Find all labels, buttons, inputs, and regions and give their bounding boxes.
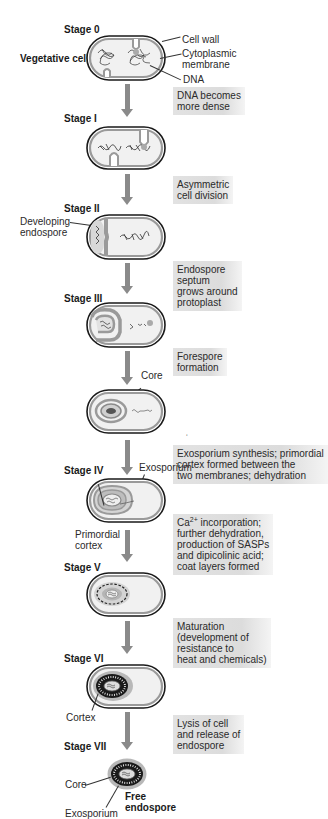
process-step-5-line3: two membranes; dehydration [177, 470, 324, 481]
arrow-down-icon [125, 84, 130, 110]
process-step-8-line1: Lysis of cell [177, 718, 240, 729]
stage-2-label: Stage II [64, 203, 100, 214]
process-step-6-line3: production of SASPs [177, 539, 269, 550]
process-step-2-line1: Asymmetric [177, 179, 229, 190]
process-step-8: Lysis of cell and release of endospore [173, 715, 244, 754]
stage-0-label: Stage 0 [64, 24, 100, 35]
stage-4-label: Stage IV [64, 465, 103, 476]
stage-6-label: Stage VI [64, 653, 103, 664]
process-step-7-line1: Maturation [177, 621, 267, 632]
calcium-charge: 2+ [190, 516, 198, 523]
core-label: Core [141, 370, 163, 381]
process-step-6-line1: Ca2+ incorporation; [177, 517, 269, 528]
arrow-down-icon [125, 263, 130, 287]
stage-3-cell-diagram [86, 302, 166, 348]
process-step-3-line4: protoplast [177, 297, 238, 308]
arrow-down-icon [125, 621, 130, 647]
forespore-cell-diagram [86, 389, 166, 434]
exosporium-free-label: Exosporium [65, 808, 118, 819]
vegetative-cell-label: Vegetative cell [20, 53, 89, 64]
process-step-5-line2: cortex formed between the [177, 459, 324, 470]
primordial-cortex-label-line1: Primordial [75, 529, 120, 540]
developing-endospore-label-line2: endospore [20, 227, 67, 238]
stage-2-cell-diagram [86, 214, 166, 260]
core-free-label: Core [65, 779, 87, 790]
process-step-6-line5: coat layers formed [177, 561, 269, 572]
process-step-5-line1: Exosporium synthesis; primordial [177, 448, 324, 459]
free-endospore-label-line2: endospore [125, 802, 176, 813]
arrow-down-icon [125, 351, 130, 378]
process-step-4-line1: Forespore [177, 351, 223, 362]
exosporium-label: Exosporium [139, 462, 192, 473]
stage-7-label: Stage VII [64, 741, 106, 752]
process-step-2-line2: cell division [177, 190, 229, 201]
dna-label: DNA [183, 74, 204, 85]
calcium-symbol: Ca [177, 517, 190, 528]
process-step-7-line3: resistance to [177, 643, 267, 654]
process-step-7: Maturation (development of resistance to… [173, 618, 271, 668]
primordial-cortex-label-line2: cortex [75, 540, 102, 551]
process-step-8-line3: endospore [177, 740, 240, 751]
cytoplasmic-membrane-label-line2: membrane [182, 59, 230, 70]
process-step-4-line2: formation [177, 362, 223, 373]
cortex-label: Cortex [66, 712, 95, 723]
cytoplasmic-membrane-label-line1: Cytoplasmic [182, 48, 236, 59]
stray-mark: ʻ [186, 433, 188, 442]
calcium-text: incorporation; [198, 517, 261, 528]
process-step-1-line2: more dense [177, 101, 241, 112]
process-step-3: Endospore septum grows around protoplast [173, 261, 242, 311]
process-step-5: Exosporium synthesis; primordial cortex … [173, 445, 328, 484]
cell-wall-label: Cell wall [182, 34, 219, 45]
arrow-down-icon [125, 174, 130, 198]
free-endospore-diagram [107, 758, 147, 790]
developing-endospore-label-line1: Developing [20, 216, 70, 227]
stage-6-cell-diagram [86, 664, 166, 709]
process-step-6-line2: further dehydration, [177, 528, 269, 539]
arrow-down-icon [125, 440, 130, 468]
process-step-2: Asymmetric cell division [173, 176, 233, 204]
process-step-4: Forespore formation [173, 348, 227, 376]
arrow-down-icon [125, 712, 130, 743]
vegetative-cell-diagram [86, 35, 166, 81]
process-step-7-line2: (development of [177, 632, 267, 643]
process-step-6: Ca2+ incorporation; further dehydration,… [173, 514, 273, 575]
process-step-8-line2: and release of [177, 729, 240, 740]
process-step-3-line3: grows around [177, 286, 238, 297]
stage-5-cell-diagram [86, 572, 166, 617]
process-step-1: DNA becomes more dense [173, 87, 245, 115]
process-step-6-line4: and dipicolinic acid; [177, 550, 269, 561]
stage-1-cell-diagram [86, 126, 166, 170]
process-step-1-line1: DNA becomes [177, 90, 241, 101]
process-step-3-line1: Endospore [177, 264, 238, 275]
arrow-down-icon [125, 530, 130, 555]
stage-1-label: Stage I [64, 113, 97, 124]
process-step-7-line4: heat and chemicals) [177, 654, 267, 665]
free-endospore-label-line1: Free [125, 791, 146, 802]
process-step-3-line2: septum [177, 275, 238, 286]
